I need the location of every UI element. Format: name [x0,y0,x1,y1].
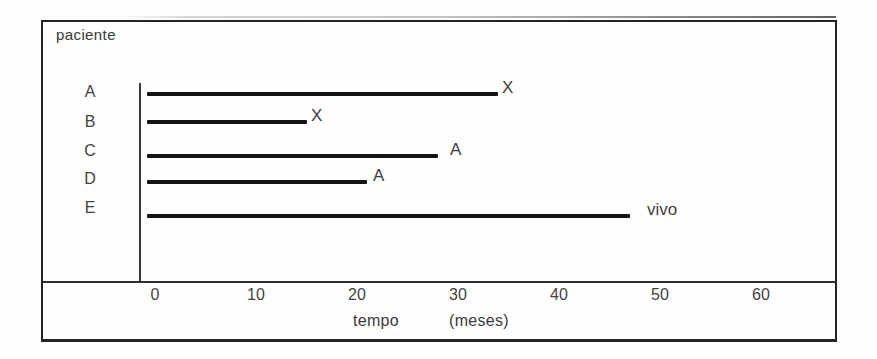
scan-artifact-line [120,16,836,18]
patient-label-a: A [77,84,103,100]
end-marker-c: A [450,141,461,158]
patient-label-d: D [77,171,103,187]
x-tick-label-40: 40 [542,287,576,303]
x-tick-label-10: 10 [239,287,273,303]
survival-bar-b [147,120,307,124]
survival-timeline-figure: paciente AXBXCADAEvivo0102030405060 temp… [0,0,877,359]
survival-bar-d [147,180,367,184]
survival-bar-e [147,214,630,218]
y-axis-title: paciente [56,27,116,42]
end-marker-a: X [502,79,513,96]
x-axis-line [43,281,835,283]
x-tick-label-30: 30 [441,287,475,303]
survival-bar-c [147,154,438,158]
x-tick-label-60: 60 [744,287,778,303]
patient-label-c: C [77,143,103,159]
patient-label-b: B [77,114,103,130]
end-marker-e: vivo [647,201,677,218]
x-tick-label-50: 50 [643,287,677,303]
y-axis-line [139,83,141,283]
x-axis-caption-word: tempo [333,313,419,329]
x-tick-label-0: 0 [138,287,172,303]
x-tick-label-20: 20 [340,287,374,303]
patient-label-e: E [77,200,103,216]
x-axis-caption-unit: (meses) [449,313,509,329]
end-marker-b: X [311,107,322,124]
end-marker-d: A [373,167,384,184]
survival-bar-a [147,92,498,96]
